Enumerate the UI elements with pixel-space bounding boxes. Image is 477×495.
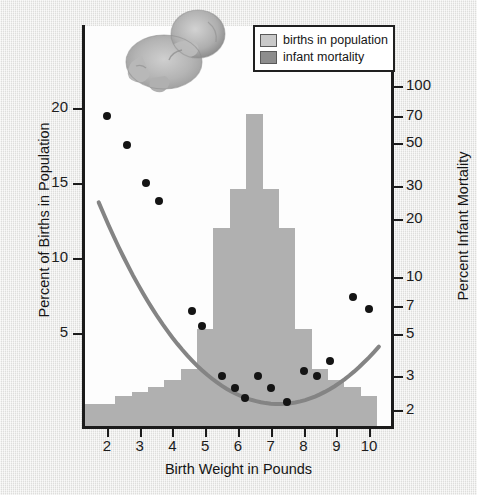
fetus-illustration [112,4,240,100]
histogram-bar [295,329,311,428]
infant-mortality-birth-weight-chart: 5101520 23571020305070100 2345678910 Per… [0,0,477,495]
chart-legend: births in population infant mortality [253,25,395,72]
x-axis-tick-label: 2 [92,437,122,454]
x-axis-tick-label: 3 [125,437,155,454]
left-axis-title: Percent of Births in Population [36,90,52,350]
right-axis-tick [393,334,403,336]
mortality-point [123,141,131,149]
histogram-bar [115,396,131,427]
x-axis-tick-label: 6 [223,437,253,454]
histogram-bar [361,396,377,427]
legend-swatch-mortality [260,51,277,64]
right-axis-tick [393,376,403,378]
right-axis-tick-label: 30 [406,176,423,193]
right-axis-tick [393,143,403,145]
x-axis-tick-label: 10 [354,437,384,454]
right-axis-tick-label: 70 [406,106,423,123]
mortality-point [241,394,249,402]
x-axis-tick [369,429,371,437]
legend-label-births: births in population [283,33,388,47]
histogram-bar [181,369,197,427]
right-axis-tick-label: 10 [406,267,423,284]
histogram-bar [148,387,164,427]
mortality-point [231,384,239,392]
left-axis-tick [73,258,83,260]
x-axis-tick [336,429,338,437]
right-axis-tick-label: 50 [406,133,423,150]
right-axis-tick [393,186,403,188]
right-axis-tick [393,306,403,308]
mortality-point [349,293,357,301]
histogram-bar [99,404,115,428]
x-axis-tick [304,429,306,437]
x-axis-tick [172,429,174,437]
right-axis-tick-label: 7 [406,296,414,313]
x-axis-tick [271,429,273,437]
legend-item-mortality: infant mortality [260,49,388,65]
mortality-point [103,112,111,120]
x-axis-tick-label: 9 [321,437,351,454]
mortality-point [267,384,275,392]
histogram-bar [328,380,344,428]
mortality-point [365,305,373,313]
x-axis-tick-label: 7 [256,437,286,454]
histogram-bar [344,387,360,427]
right-axis-tick-label: 100 [406,76,431,93]
right-axis-tick-label: 5 [406,324,414,341]
x-axis-tick [140,429,142,437]
histogram-bar [132,392,148,428]
histogram-bar [164,380,180,428]
x-axis-title: Birth Weight in Pounds [84,461,393,477]
right-axis-tick-label: 3 [406,366,414,383]
right-axis-tick [393,86,403,88]
x-axis-tick-label: 8 [289,437,319,454]
right-axis-tick-label: 20 [406,209,423,226]
x-axis-tick [238,429,240,437]
histogram-bar [246,114,262,427]
x-axis-tick-label: 5 [190,437,220,454]
left-axis-tick [73,108,83,110]
left-axis-tick [73,183,83,185]
x-axis-tick [107,429,109,437]
legend-label-mortality: infant mortality [283,50,364,64]
x-axis-tick-label: 4 [157,437,187,454]
left-axis-line [82,25,85,429]
histogram-bar [213,228,229,427]
mortality-point [300,367,308,375]
histogram-bar [197,329,213,428]
left-axis-tick [73,333,83,335]
right-axis-tick [393,116,403,118]
legend-item-births: births in population [260,32,388,48]
x-axis-tick [205,429,207,437]
right-axis-tick [393,277,403,279]
right-axis-tick-label: 2 [406,400,414,417]
right-axis-title: Percent Infant Mortality [455,96,471,356]
right-axis-tick [393,410,403,412]
legend-swatch-births [260,34,277,47]
right-axis-tick [393,219,403,221]
